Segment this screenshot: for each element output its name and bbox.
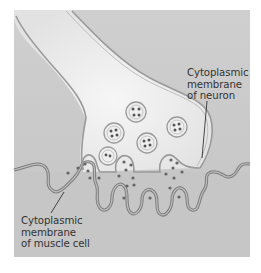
muscle-label-line-1: Cytoplasmic: [21, 215, 90, 227]
neuron-label-line-3: of neuron: [187, 90, 248, 102]
muscle-label-line-2: membrane: [21, 227, 90, 239]
muscle-label-line-3: of muscle cell: [21, 238, 90, 250]
synaptic-vesicle: [104, 123, 124, 143]
neuron-membrane-label: Cytoplasmic membrane of neuron: [187, 67, 248, 102]
neuron-label-line-2: membrane: [187, 79, 248, 91]
muscle-membrane-label: Cytoplasmic membrane of muscle cell: [21, 215, 90, 250]
synaptic-vesicle: [167, 117, 187, 137]
synaptic-vesicle: [137, 133, 157, 153]
neuron-label-line-1: Cytoplasmic: [187, 67, 248, 79]
synaptic-vesicle: [99, 147, 117, 165]
neuromuscular-junction-figure: Cytoplasmic membrane of neuron Cytoplasm…: [0, 0, 261, 273]
synaptic-vesicle: [126, 102, 146, 122]
